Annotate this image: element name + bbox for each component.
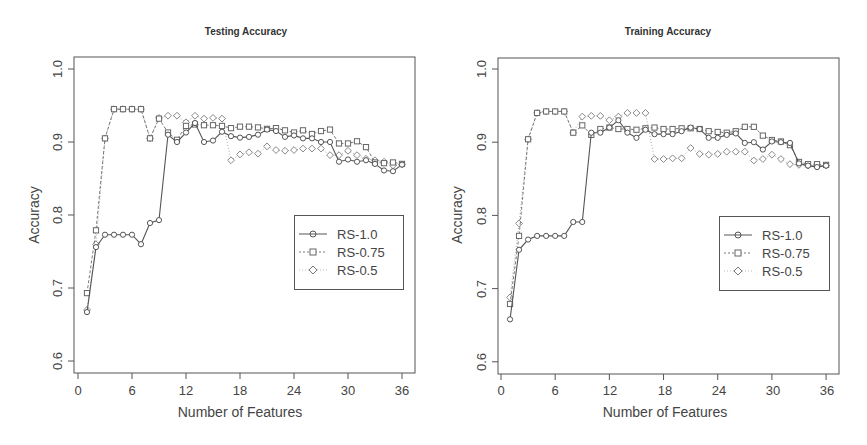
data-point-marker: [760, 147, 765, 152]
data-point-marker: [805, 163, 810, 168]
data-point-marker: [363, 145, 368, 150]
data-point-marker: [544, 233, 549, 238]
data-point-marker: [705, 151, 712, 158]
data-point-marker: [210, 123, 215, 128]
data-point-marker: [318, 145, 325, 152]
legend-label: RS-0.5: [762, 264, 802, 279]
data-point-marker: [219, 115, 226, 122]
x-tick-label: 24: [287, 383, 301, 398]
y-axis-label: Accuracy: [449, 186, 465, 244]
data-point-marker: [129, 107, 134, 112]
chart-title: Testing Accuracy: [205, 26, 287, 37]
data-point-marker: [553, 109, 558, 114]
data-point-marker: [147, 136, 152, 141]
data-point-marker: [589, 130, 594, 135]
data-point-marker: [165, 132, 170, 137]
data-point-marker: [796, 161, 801, 166]
legend-label: RS-1.0: [337, 227, 377, 242]
data-point-marker: [562, 109, 567, 114]
data-point-marker: [661, 126, 666, 131]
data-point-marker: [372, 161, 377, 166]
legend-item-rs-1-0: RS-1.0: [720, 226, 802, 244]
x-tick-label: 18: [658, 383, 672, 398]
data-point-marker: [724, 132, 729, 137]
data-point-marker: [93, 245, 98, 250]
data-point-marker: [625, 130, 630, 135]
data-point-marker: [652, 132, 657, 137]
data-point-marker: [282, 134, 287, 139]
data-point-marker: [138, 242, 143, 247]
data-point-marker: [219, 123, 224, 128]
data-point-marker: [138, 107, 143, 112]
data-point-marker: [669, 155, 676, 162]
data-point-marker: [165, 112, 172, 119]
data-point-marker: [525, 237, 530, 242]
data-point-marker: [598, 130, 603, 135]
y-tick-label: 1.0: [474, 60, 489, 78]
data-point-marker: [255, 132, 260, 137]
x-tick-label: 12: [179, 383, 193, 398]
data-point-marker: [201, 139, 206, 144]
data-point-marker: [102, 136, 107, 141]
data-point-marker: [84, 309, 89, 314]
data-point-marker: [670, 126, 675, 131]
legend-label: RS-1.0: [762, 228, 802, 243]
data-point-marker: [525, 137, 530, 142]
data-point-marker: [210, 115, 217, 122]
x-tick-label: 0: [74, 383, 81, 398]
data-point-marker: [814, 164, 819, 169]
data-point-marker: [696, 151, 703, 158]
data-point-marker: [516, 220, 523, 227]
data-point-marker: [300, 136, 305, 141]
data-point-marker: [345, 157, 350, 162]
data-point-marker: [354, 139, 359, 144]
data-point-marker: [336, 141, 341, 146]
data-point-marker: [571, 130, 576, 135]
data-point-marker: [823, 163, 828, 168]
data-point-marker: [93, 228, 98, 233]
data-point-marker: [300, 145, 307, 152]
data-point-marker: [354, 159, 359, 164]
data-point-marker: [670, 132, 675, 137]
data-point-marker: [787, 161, 794, 168]
data-point-marker: [327, 127, 332, 132]
data-point-marker: [778, 156, 785, 163]
data-point-marker: [327, 139, 332, 144]
data-point-marker: [183, 130, 188, 135]
data-point-marker: [246, 149, 253, 156]
data-point-marker: [714, 151, 721, 158]
y-tick-label: 0.7: [50, 279, 65, 297]
data-point-marker: [246, 124, 251, 129]
data-point-marker: [264, 127, 269, 132]
testing-accuracy-chart: Testing Accuracy Accuracy Number of Feat…: [0, 0, 433, 445]
data-point-marker: [282, 147, 289, 154]
data-point-marker: [255, 125, 260, 130]
data-point-marker: [318, 139, 323, 144]
data-point-marker: [769, 139, 774, 144]
data-point-marker: [111, 232, 116, 237]
data-point-marker: [553, 233, 558, 238]
legend: RS-1.0 RS-0.75 RS-0.5: [719, 216, 830, 291]
data-point-marker: [642, 110, 649, 117]
data-point-marker: [507, 317, 512, 322]
data-point-marker: [84, 291, 89, 296]
data-point-marker: [246, 134, 251, 139]
data-point-marker: [345, 147, 352, 154]
data-point-marker: [580, 219, 585, 224]
data-point-marker: [634, 127, 639, 132]
legend: RS-1.0 RS-0.75 RS-0.5: [294, 215, 404, 290]
data-point-marker: [760, 133, 765, 138]
data-point-marker: [580, 123, 585, 128]
data-point-marker: [660, 156, 667, 163]
data-point-marker: [399, 162, 404, 167]
training-accuracy-chart: Training Accuracy Accuracy Number of Fea…: [434, 0, 867, 445]
data-point-marker: [616, 118, 621, 123]
y-tick-label: 1.0: [50, 60, 65, 78]
x-axis-label: Number of Features: [603, 404, 728, 420]
x-tick-label: 36: [820, 383, 834, 398]
data-point-marker: [354, 152, 361, 159]
data-point-marker: [778, 140, 783, 145]
data-point-marker: [381, 161, 386, 166]
data-point-marker: [120, 232, 125, 237]
data-point-marker: [616, 126, 621, 131]
